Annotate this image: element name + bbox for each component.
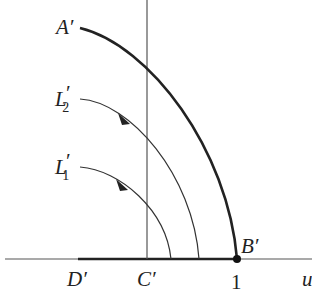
- diagram-canvas: A′ L′2 L′1 B′ D′ C′ 1 u: [0, 0, 312, 299]
- curve-a-to-b: [80, 28, 237, 259]
- label-b: B′: [241, 234, 259, 258]
- tick-label-one: 1: [231, 270, 242, 294]
- label-d: D′: [66, 267, 87, 291]
- point-b: [233, 255, 241, 263]
- curve-l1: [80, 167, 171, 259]
- arrow-icon-l2: [118, 113, 130, 125]
- label-l2: L′2: [54, 81, 70, 115]
- label-l1: L′1: [54, 149, 70, 183]
- label-a: A′: [54, 15, 74, 39]
- curve-l2: [80, 99, 199, 259]
- label-c: C′: [137, 267, 156, 291]
- axis-label-u: u: [302, 267, 312, 291]
